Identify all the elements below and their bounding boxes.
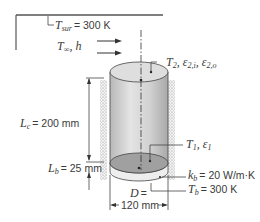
svg-text:D=: D= [129, 186, 147, 200]
flow-arrows [97, 39, 122, 56]
insulation-right [168, 80, 175, 180]
cylinder-top-surface [110, 62, 168, 82]
svg-text:kb= 20 W/m·K: kb= 20 W/m·K [188, 168, 255, 183]
svg-text:Tb= 300 K: Tb= 300 K [188, 182, 237, 197]
svg-text:Tsur= 300 K: Tsur= 300 K [55, 18, 110, 33]
svg-text:T∞, h: T∞, h [57, 39, 81, 54]
t-sur-label: Tsur= 300 K [55, 18, 110, 33]
svg-text:T2, ε2,i, ε2,o: T2, ε2,i, ε2,o [166, 55, 216, 70]
svg-text:120 mm: 120 mm [121, 199, 159, 211]
cylinder-heat-transfer-diagram: Tsur= 300 K T∞, h T2, ε2,i, ε2,o T1, ε1 [0, 0, 260, 222]
lc-dimension: Lc= 200 mm [19, 78, 104, 161]
cylinder [110, 62, 168, 173]
svg-text:Lc= 200 mm: Lc= 200 mm [19, 116, 79, 131]
svg-text:Lb= 25mm: Lb= 25mm [47, 161, 102, 176]
freestream-label: T∞, h [57, 39, 81, 54]
svg-text:T1, ε1: T1, ε1 [186, 137, 211, 152]
lb-dimension: Lb= 25mm [47, 161, 104, 190]
cylinder-bottom-surface [110, 153, 168, 173]
base-temperature-label: Tb= 300 K [151, 182, 237, 197]
